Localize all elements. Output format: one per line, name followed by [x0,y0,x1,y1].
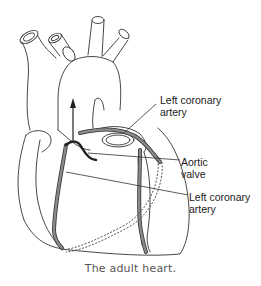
heart-illustration [0,0,261,286]
heart-diagram: Left coronary artery Aortic valve Left c… [0,0,261,286]
label-aortic-valve: Aortic valve [181,156,208,180]
label-line: artery [160,106,221,118]
label-line: Left coronary [160,94,221,106]
label-line: Left coronary [189,191,250,203]
label-line: valve [181,168,208,180]
figure-caption: The adult heart. [0,262,261,275]
label-line: Aortic [181,156,208,168]
label-left-coronary-artery-top: Left coronary artery [160,94,221,118]
label-line: artery [189,203,250,215]
label-left-coronary-artery-bottom: Left coronary artery [189,191,250,215]
